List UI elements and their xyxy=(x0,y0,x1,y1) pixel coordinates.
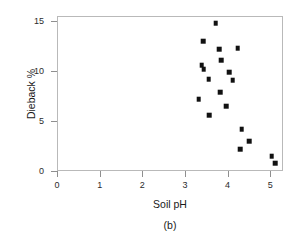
x-axis-tick xyxy=(270,171,271,177)
x-axis-tick-label: 1 xyxy=(97,180,102,190)
data-point xyxy=(213,21,218,26)
data-point xyxy=(219,58,224,63)
scatter-plot-figure: Dieback % 051015 012345 Soil pH (b) xyxy=(0,0,295,244)
data-point xyxy=(247,139,252,144)
data-point xyxy=(239,127,244,132)
y-axis-tick-label: 5 xyxy=(39,116,44,126)
data-point xyxy=(231,78,236,83)
x-axis-tick-label: 4 xyxy=(225,180,230,190)
data-point xyxy=(217,47,222,52)
x-axis-tick xyxy=(228,171,229,177)
x-axis-label: Soil pH xyxy=(57,198,283,210)
x-axis-tick-label: 3 xyxy=(182,180,187,190)
data-points-layer xyxy=(58,17,282,170)
figure-caption: (b) xyxy=(57,219,283,231)
data-point xyxy=(196,97,201,102)
x-axis-tick xyxy=(142,171,143,177)
data-point xyxy=(235,46,240,51)
y-axis-label-container: Dieback % xyxy=(0,16,26,171)
y-axis-tick-label: 15 xyxy=(34,16,44,26)
data-point xyxy=(206,77,211,82)
data-point xyxy=(238,147,243,152)
data-point xyxy=(273,161,278,166)
x-axis-tick xyxy=(57,171,58,177)
y-axis-tick-label: 0 xyxy=(39,166,44,176)
data-point xyxy=(218,90,223,95)
x-axis-tick xyxy=(100,171,101,177)
data-point xyxy=(269,154,274,159)
plot-area xyxy=(57,16,283,171)
x-axis-tick xyxy=(185,171,186,177)
x-axis: 012345 xyxy=(57,171,283,183)
data-point xyxy=(201,39,206,44)
y-axis-tick-label: 10 xyxy=(34,66,44,76)
y-axis: 051015 xyxy=(46,16,57,171)
data-point xyxy=(227,70,232,75)
x-axis-tick-label: 0 xyxy=(54,180,59,190)
data-point xyxy=(224,104,229,109)
data-point xyxy=(202,67,207,72)
data-point xyxy=(207,113,212,118)
x-axis-tick-label: 5 xyxy=(268,180,273,190)
x-axis-tick-label: 2 xyxy=(140,180,145,190)
